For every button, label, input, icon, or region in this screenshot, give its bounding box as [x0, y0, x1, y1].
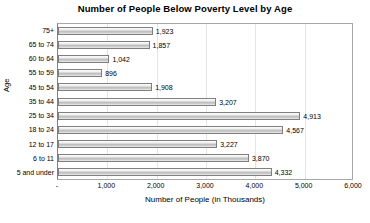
x-axis-tick-label: 3,000: [196, 182, 214, 189]
bar-value-label: 1,908: [155, 84, 173, 91]
bar-row: 1,908: [58, 80, 352, 94]
bar[interactable]: 1,908: [58, 83, 152, 91]
bar[interactable]: 3,207: [58, 98, 216, 106]
bar-series: 1,9231,8571,0428961,9083,2074,9134,5673,…: [58, 24, 352, 179]
y-axis-tick-label: 35 to 44: [10, 94, 56, 108]
bar[interactable]: 1,857: [58, 41, 150, 49]
y-axis-tick-label: 25 to 34: [10, 109, 56, 123]
x-axis-tick-label: 6,000: [344, 182, 362, 189]
x-axis-tick-label: 5,000: [295, 182, 313, 189]
bar-value-label: 3,870: [252, 154, 270, 161]
x-axis-tick-label: 1,000: [98, 182, 116, 189]
y-axis-tick-label: 75+: [10, 23, 56, 37]
bar-value-label: 3,207: [219, 98, 237, 105]
bar-row: 1,923: [58, 24, 352, 38]
bar-value-label: 4,332: [275, 168, 293, 175]
bar[interactable]: 3,870: [58, 154, 249, 162]
bar-value-label: 4,913: [303, 112, 321, 119]
y-axis-tick-label: 45 to 54: [10, 80, 56, 94]
bar-row: 4,567: [58, 123, 352, 137]
clipped-footer-strip: [0, 215, 370, 223]
y-axis-tick-labels: 75+65 to 7460 to 6455 to 5945 to 5435 to…: [10, 23, 56, 180]
bar-value-label: 1,857: [153, 42, 171, 49]
bar-value-label: 1,042: [112, 56, 130, 63]
y-axis-tick-label: 12 to 17: [10, 137, 56, 151]
y-axis-tick-label: 60 to 64: [10, 52, 56, 66]
x-axis-tick-label: -: [56, 182, 58, 189]
x-axis-title: Number of People (in Thousands): [57, 195, 353, 204]
bar[interactable]: 896: [58, 69, 102, 77]
bar-row: 3,207: [58, 94, 352, 108]
bar-row: 1,042: [58, 52, 352, 66]
y-axis-tick-label: 18 to 24: [10, 123, 56, 137]
x-axis-tick-label: 4,000: [246, 182, 264, 189]
bar[interactable]: 4,567: [58, 126, 283, 134]
y-axis-tick-label: 65 to 74: [10, 37, 56, 51]
chart-title: Number of People Below Poverty Level by …: [0, 3, 370, 14]
bar-value-label: 4,567: [286, 126, 304, 133]
bar[interactable]: 4,913: [58, 112, 300, 120]
bar[interactable]: 3,227: [58, 140, 217, 148]
y-axis-tick-label: 5 and under: [10, 166, 56, 180]
bar[interactable]: 4,332: [58, 168, 272, 176]
bar-row: 1,857: [58, 38, 352, 52]
bar[interactable]: 1,042: [58, 55, 109, 63]
plot-area: 1,9231,8571,0428961,9083,2074,9134,5673,…: [57, 23, 353, 180]
bar-row: 3,870: [58, 151, 352, 165]
bar-value-label: 896: [105, 70, 117, 77]
bar-row: 3,227: [58, 137, 352, 151]
y-axis-tick-label: 6 to 11: [10, 151, 56, 165]
bar-value-label: 3,227: [220, 140, 238, 147]
bar-value-label: 1,923: [156, 28, 174, 35]
x-axis-tick-label: 2,000: [147, 182, 165, 189]
bar-row: 4,332: [58, 165, 352, 179]
bar-chart: Number of People Below Poverty Level by …: [0, 0, 370, 223]
x-axis-tick-labels: -1,0002,0003,0004,0005,0006,000: [57, 182, 353, 194]
y-axis-tick-label: 55 to 59: [10, 66, 56, 80]
bar[interactable]: 1,923: [58, 27, 153, 35]
bar-row: 896: [58, 66, 352, 80]
bar-row: 4,913: [58, 109, 352, 123]
